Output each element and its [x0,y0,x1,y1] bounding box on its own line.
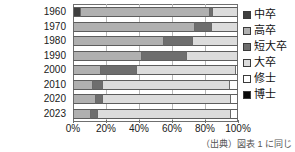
legend-item: 博士 [243,88,295,101]
bar-segment [137,65,236,75]
y-axis-label: 1960 [0,7,70,17]
x-axis-label: 80% [195,123,215,134]
chart-legend: 中卒高卒短大卒大卒修士博士 [243,8,295,101]
y-axis-label: 2020 [0,94,70,104]
legend-swatch-icon [243,91,251,99]
bar-segment [73,7,81,17]
bar-segment [101,65,137,75]
bar-segment [73,94,96,104]
bar-segment [73,36,164,46]
legend-item: 大卒 [243,56,295,69]
legend-swatch-icon [243,59,251,67]
bar-segment [96,94,103,104]
x-axis-label: 20% [96,123,116,134]
y-axis-label: 1970 [0,22,70,32]
bar-segment [98,109,232,119]
legend-item: 高卒 [243,24,295,37]
x-axis-labels: 0%20%40%60%80%100% [73,123,238,137]
bar-segment [91,109,98,119]
legend-item: 修士 [243,72,295,85]
bar-row [73,80,238,90]
bar-segment [231,109,238,119]
legend-item: 中卒 [243,8,295,21]
bar-row [73,51,238,61]
legend-swatch-icon [243,11,251,19]
bar-segment [212,22,238,32]
bar-segment [193,36,238,46]
bar-segment [164,36,194,46]
legend-label: 短大卒 [254,41,287,52]
bar-segment [103,80,230,90]
y-axis-label: 2023 [0,109,70,119]
bar-segment [231,94,238,104]
legend-label: 高卒 [254,25,276,36]
bar-segment [195,22,212,32]
bar-segment [73,22,195,32]
x-axis-label: 40% [129,123,149,134]
bar-row [73,94,238,104]
bar-row [73,109,238,119]
legend-swatch-icon [243,27,251,35]
source-note: （出典）図表 1 に同じ [201,137,292,150]
plot-area [73,4,238,122]
legend-item: 短大卒 [243,40,295,53]
bar-segment [73,80,93,90]
bar-row [73,36,238,46]
bar-row [73,22,238,32]
bar-segment [93,80,103,90]
legend-swatch-icon [243,75,251,83]
x-axis-label: 0% [66,123,80,134]
bar-segment [73,109,91,119]
stacked-bar-chart: 19601970198019902000201020202023 0%20%40… [0,0,295,152]
bar-segment [230,80,238,90]
legend-swatch-icon [243,43,251,51]
y-axis-label: 2010 [0,80,70,90]
y-axis-label: 2000 [0,65,70,75]
bar-segment [187,51,238,61]
legend-label: 博士 [254,89,276,100]
legend-label: 中卒 [254,9,276,20]
bar-rows [73,4,238,122]
bar-segment [81,7,210,17]
bar-segment [103,94,232,104]
legend-label: 大卒 [254,57,276,68]
bar-row [73,65,238,75]
legend-label: 修士 [254,73,276,84]
x-axis-label: 100% [225,123,251,134]
bar-segment [236,65,238,75]
bar-segment [142,51,187,61]
bar-segment [213,7,238,17]
bar-row [73,7,238,17]
y-axis-labels: 19601970198019902000201020202023 [0,4,70,122]
bar-segment [73,51,142,61]
y-axis-label: 1990 [0,51,70,61]
x-axis-label: 60% [162,123,182,134]
bar-segment [73,65,101,75]
y-axis-label: 1980 [0,36,70,46]
